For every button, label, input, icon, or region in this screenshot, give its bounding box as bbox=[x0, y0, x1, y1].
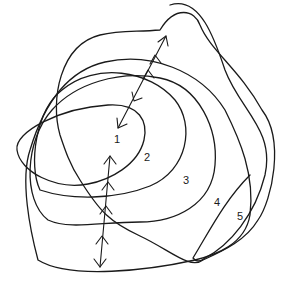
loop-4 bbox=[26, 59, 251, 271]
loop-5-lower-lobe bbox=[170, 4, 267, 261]
region-label-5: 5 bbox=[237, 211, 243, 222]
region-label-1: 1 bbox=[114, 134, 120, 145]
chevron-down-icon bbox=[132, 92, 142, 101]
loop-3 bbox=[30, 76, 215, 225]
region-label-4: 4 bbox=[214, 197, 220, 208]
lower-transition-arrow bbox=[94, 156, 116, 267]
upper-transition-arrow bbox=[117, 36, 168, 128]
region-label-2: 2 bbox=[144, 152, 150, 163]
region-label-3: 3 bbox=[183, 175, 189, 186]
contour-diagram bbox=[0, 0, 287, 281]
